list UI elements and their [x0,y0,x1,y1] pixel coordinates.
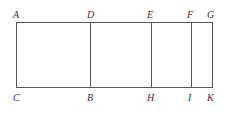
label-F: F [186,9,194,20]
label-G: G [207,9,214,20]
label-K: K [206,92,215,103]
label-H: H [146,92,155,103]
label-D: D [86,9,95,20]
label-I: I [187,92,192,103]
label-A: A [12,9,20,20]
label-E: E [146,9,153,20]
label-B: B [87,92,93,103]
label-C: C [13,92,20,103]
geometry-diagram: A D E F G C B H I K [0,0,231,117]
